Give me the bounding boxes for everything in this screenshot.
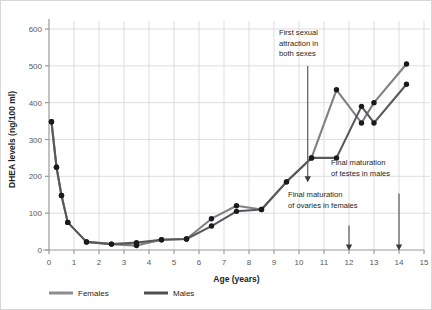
data-point-males	[259, 207, 264, 212]
data-point-males	[109, 241, 114, 246]
annotation-label-final-maturation-testes: of testes in males	[331, 169, 390, 178]
x-axis-tick-label: 4	[147, 258, 152, 267]
data-point-males	[334, 155, 339, 160]
y-axis-tick-label: 200	[29, 172, 43, 181]
legend-label-males: Males	[173, 289, 194, 298]
x-axis-tick-label: 14	[395, 258, 404, 267]
y-axis-tick-label: 0	[38, 246, 43, 255]
x-axis-tick-label: 3	[122, 258, 127, 267]
data-point-males	[404, 82, 409, 87]
x-axis-tick-label: 10	[295, 258, 304, 267]
data-point-males	[209, 223, 214, 228]
x-axis-tick-label: 1	[72, 258, 77, 267]
annotation-label-final-maturation-ovaries: Final maturation	[288, 190, 342, 199]
series-line-females	[52, 64, 407, 246]
x-axis-tick-label: 2	[97, 258, 102, 267]
data-point-males	[359, 104, 364, 109]
x-axis-tick-label: 6	[197, 258, 202, 267]
x-axis-tick-label: 15	[420, 258, 429, 267]
data-point-males	[159, 237, 164, 242]
data-point-males	[49, 119, 54, 124]
data-point-males	[234, 209, 239, 214]
data-point-females	[209, 216, 214, 221]
y-axis-tick-label: 300	[29, 136, 43, 145]
annotation-arrow-head-first-sexual-attraction	[305, 176, 311, 182]
data-point-males	[309, 155, 314, 160]
data-point-males	[65, 220, 70, 225]
x-axis-tick-label: 13	[370, 258, 379, 267]
y-axis-tick-label: 500	[29, 62, 43, 71]
data-point-females	[334, 87, 339, 92]
data-point-males	[54, 164, 59, 169]
data-point-males	[134, 240, 139, 245]
annotation-label-final-maturation-testes: Final maturation	[331, 158, 385, 167]
annotation-label-first-sexual-attraction: attraction in	[279, 39, 318, 48]
data-point-males	[59, 193, 64, 198]
x-axis-tick-label: 11	[320, 258, 329, 267]
data-point-females	[404, 61, 409, 66]
annotation-label-first-sexual-attraction: First sexual	[279, 28, 318, 37]
data-point-males	[371, 120, 376, 125]
x-axis-tick-label: 5	[172, 258, 177, 267]
x-axis-tick-label: 0	[47, 258, 52, 267]
y-axis-title: DHEA levels (ng/100 ml)	[7, 91, 17, 188]
dhea-levels-line-chart: 0100200300400500600012345678910111213141…	[1, 1, 432, 310]
data-point-females	[371, 100, 376, 105]
data-point-males	[84, 239, 89, 244]
y-axis-tick-label: 100	[29, 209, 43, 218]
data-point-males	[284, 179, 289, 184]
data-point-females	[359, 120, 364, 125]
data-point-males	[184, 236, 189, 241]
x-axis-tick-label: 7	[222, 258, 227, 267]
y-axis-tick-label: 400	[29, 99, 43, 108]
legend-label-females: Females	[78, 289, 109, 298]
data-point-females	[234, 203, 239, 208]
x-axis-tick-label: 12	[345, 258, 354, 267]
annotation-label-first-sexual-attraction: both sexes	[279, 49, 316, 58]
x-axis-tick-label: 9	[272, 258, 277, 267]
x-axis-tick-label: 8	[247, 258, 252, 267]
annotation-label-final-maturation-ovaries: of ovaries in females	[288, 201, 358, 210]
chart-figure: 0100200300400500600012345678910111213141…	[0, 0, 432, 310]
x-axis-title: Age (years)	[213, 274, 259, 284]
y-axis-tick-label: 600	[29, 25, 43, 34]
